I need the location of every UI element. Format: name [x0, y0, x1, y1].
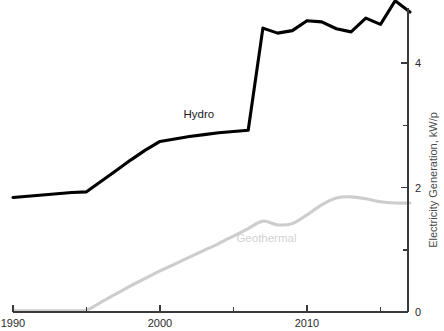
x-tick-label-1990: 1990 [1, 317, 25, 329]
line-chart: 1990 2000 2010 4 2 0 Electricity Generat… [0, 0, 444, 331]
series-label-geothermal: Geothermal [236, 232, 296, 244]
series-label-hydro: Hydro [184, 108, 215, 120]
y-tick-label-0: 0 [415, 306, 421, 318]
y-tick-label-2: 2 [415, 182, 421, 194]
y-axis-title: Electricity Generation, kW/p [427, 112, 439, 248]
y-tick-label-4: 4 [415, 57, 421, 69]
chart-background [0, 0, 444, 331]
x-tick-label-2000: 2000 [148, 317, 172, 329]
x-tick-label-2010: 2010 [295, 317, 319, 329]
chart-canvas: 1990 2000 2010 4 2 0 Electricity Generat… [0, 0, 444, 331]
